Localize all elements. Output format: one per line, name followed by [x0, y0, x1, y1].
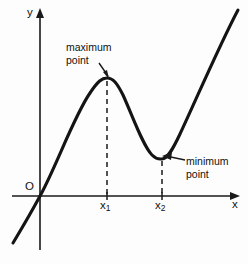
tick-label-x1: x1	[100, 199, 110, 215]
graph-canvas	[0, 0, 248, 264]
y-axis-label: y	[27, 6, 33, 19]
maximum-point-label-line1: maximum	[66, 41, 112, 53]
x-axis-label: x	[232, 198, 238, 211]
y-axis-arrowhead	[36, 8, 44, 18]
maximum-point-label: maximumpoint	[66, 41, 112, 66]
minimum-point-label: minimumpoint	[186, 155, 229, 180]
minimum-point-label-line2: point	[186, 168, 209, 180]
tick-label-x1-subscript: 1	[106, 203, 111, 213]
graph-figure: maximumpoint minimumpoint y x O x1 x2	[0, 0, 248, 264]
origin-label: O	[25, 180, 34, 193]
minimum-point-label-line1: minimum	[186, 155, 229, 167]
function-curve	[13, 10, 238, 243]
tick-label-x2-subscript: 2	[161, 203, 166, 213]
tick-label-x2: x2	[155, 199, 165, 215]
maximum-point-label-line2: point	[66, 54, 89, 66]
